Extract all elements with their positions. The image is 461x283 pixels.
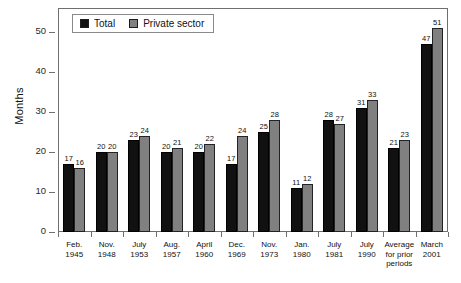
x-axis-tick-mark — [188, 232, 189, 237]
bar-private-sector[interactable] — [237, 136, 248, 232]
bar-group: 1112 — [291, 184, 313, 232]
bar-private-sector[interactable] — [334, 124, 345, 232]
x-axis-label-line: Nov. — [253, 240, 286, 250]
bar-item[interactable]: 47 — [421, 44, 432, 232]
bar-item[interactable]: 22 — [204, 144, 215, 232]
y-axis-tick-label: 10 — [35, 185, 46, 196]
bar-value-label: 24 — [141, 127, 149, 135]
bar-item[interactable]: 33 — [367, 100, 378, 232]
x-axis-label: Averagefor priorperiods — [383, 240, 416, 269]
bar-private-sector[interactable] — [107, 152, 118, 232]
bar-item[interactable]: 25 — [258, 132, 269, 232]
bar-group: 2324 — [128, 136, 150, 232]
x-axis-label: March2001 — [416, 240, 449, 259]
x-axis-label-line: 1960 — [188, 250, 221, 260]
bar-item[interactable]: 17 — [226, 164, 237, 232]
x-axis-label-line: Feb. — [58, 240, 91, 250]
bar-total[interactable] — [161, 152, 172, 232]
y-axis-tick-mark — [49, 112, 55, 113]
x-axis-tick-mark — [123, 232, 124, 237]
bar-item[interactable]: 16 — [74, 168, 85, 232]
bar-total[interactable] — [226, 164, 237, 232]
bar-value-label: 21 — [390, 139, 398, 147]
x-axis-label: Nov.1948 — [91, 240, 124, 259]
x-axis-label-line: 1948 — [91, 250, 124, 260]
x-axis-label: Jan.1980 — [286, 240, 319, 259]
bar-total[interactable] — [356, 108, 367, 232]
bar-item[interactable]: 24 — [139, 136, 150, 232]
legend-item[interactable]: Total — [80, 18, 115, 29]
x-axis-label: Nov.1973 — [253, 240, 286, 259]
bar-private-sector[interactable] — [432, 28, 443, 232]
y-axis-tick-mark — [49, 32, 55, 33]
bar-private-sector[interactable] — [399, 140, 410, 232]
bar-item[interactable]: 11 — [291, 188, 302, 232]
bar-item[interactable]: 17 — [63, 164, 74, 232]
bar-item[interactable]: 28 — [269, 120, 280, 232]
bar-item[interactable]: 23 — [128, 140, 139, 232]
x-axis-tick-mark — [448, 232, 449, 237]
bar-total[interactable] — [63, 164, 74, 232]
x-axis-label-line: Aug. — [156, 240, 189, 250]
bar-private-sector[interactable] — [139, 136, 150, 232]
x-axis-tick-mark — [58, 232, 59, 237]
x-axis-label: Aug.1957 — [156, 240, 189, 259]
x-axis-tick-mark — [318, 232, 319, 237]
bar-total[interactable] — [421, 44, 432, 232]
legend-item[interactable]: Private sector — [129, 18, 204, 29]
bar-item[interactable]: 23 — [399, 140, 410, 232]
bar-item[interactable]: 20 — [161, 152, 172, 232]
y-axis-title: Months — [13, 61, 25, 151]
bar-value-label: 25 — [260, 123, 268, 131]
x-axis-label-line: 1953 — [123, 250, 156, 260]
bar-private-sector[interactable] — [204, 144, 215, 232]
bar-value-label: 28 — [271, 111, 279, 119]
bar-total[interactable] — [193, 152, 204, 232]
legend-label: Private sector — [143, 18, 204, 29]
bar-item[interactable]: 20 — [107, 152, 118, 232]
x-axis-label-line: April — [188, 240, 221, 250]
bar-item[interactable]: 20 — [193, 152, 204, 232]
x-axis-label-line: for prior — [383, 250, 416, 260]
bar-item[interactable]: 28 — [323, 120, 334, 232]
bar-private-sector[interactable] — [302, 184, 313, 232]
bar-total[interactable] — [96, 152, 107, 232]
bar-total[interactable] — [323, 120, 334, 232]
x-axis-label-line: July — [318, 240, 351, 250]
bar-item[interactable]: 21 — [388, 148, 399, 232]
y-axis-tick-label: 0 — [41, 225, 46, 236]
bar-value-label: 22 — [206, 135, 214, 143]
bar-value-label: 21 — [173, 139, 181, 147]
bar-group: 1716 — [63, 164, 85, 232]
bar-item[interactable]: 24 — [237, 136, 248, 232]
bar-total[interactable] — [291, 188, 302, 232]
x-axis-label: July1990 — [351, 240, 384, 259]
bar-item[interactable]: 20 — [96, 152, 107, 232]
bar-item[interactable]: 27 — [334, 124, 345, 232]
x-axis-label: July1981 — [318, 240, 351, 259]
bar-group: 1724 — [226, 136, 248, 232]
x-axis-tick-mark — [351, 232, 352, 237]
bar-value-label: 51 — [433, 19, 441, 27]
bar-private-sector[interactable] — [269, 120, 280, 232]
y-axis-tick-label: 20 — [35, 145, 46, 156]
bar-item[interactable]: 21 — [172, 148, 183, 232]
bar-total[interactable] — [388, 148, 399, 232]
bar-private-sector[interactable] — [74, 168, 85, 232]
y-axis-tick-label: 30 — [35, 105, 46, 116]
bar-total[interactable] — [258, 132, 269, 232]
bar-total[interactable] — [128, 140, 139, 232]
bar-private-sector[interactable] — [367, 100, 378, 232]
legend-swatch-icon — [129, 19, 138, 28]
bar-item[interactable]: 12 — [302, 184, 313, 232]
x-axis-label-line: March — [416, 240, 449, 250]
y-axis-tick-label: 40 — [35, 65, 46, 76]
bar-private-sector[interactable] — [172, 148, 183, 232]
bar-item[interactable]: 31 — [356, 108, 367, 232]
bar-group: 2827 — [323, 120, 345, 232]
x-axis-tick-mark — [221, 232, 222, 237]
bar-item[interactable]: 51 — [432, 28, 443, 232]
x-axis-tick-mark — [416, 232, 417, 237]
x-axis-label-line: 1981 — [318, 250, 351, 260]
x-axis-label-line: July — [123, 240, 156, 250]
